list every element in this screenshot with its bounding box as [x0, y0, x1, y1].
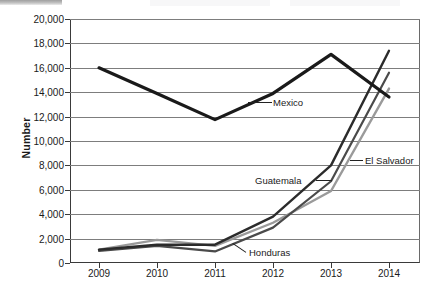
- x-tick: [157, 263, 158, 268]
- x-tick-label: 2011: [188, 268, 242, 279]
- x-tick: [331, 263, 332, 268]
- y-tick: [65, 263, 70, 264]
- series-label-honduras: Honduras: [249, 247, 290, 258]
- leader-line-guatemala: [316, 180, 332, 181]
- x-tick-label: 2010: [130, 268, 184, 279]
- x-tick: [389, 263, 390, 268]
- series-line-mexico: [99, 54, 389, 119]
- y-tick-label: 2,000: [18, 233, 64, 244]
- series-label-mexico: Mexico: [273, 97, 303, 108]
- series-lines: [70, 19, 420, 263]
- series-label-el-salvador: El Salvador: [365, 155, 414, 166]
- x-tick: [99, 263, 100, 268]
- x-tick: [215, 263, 216, 268]
- y-tick-label: 16,000: [18, 62, 64, 73]
- page-header-artifact: [0, 0, 62, 5]
- y-tick-label: 14,000: [18, 87, 64, 98]
- y-tick-label: 4,000: [18, 209, 64, 220]
- x-tick-label: 2012: [246, 268, 300, 279]
- series-line-honduras: [99, 73, 389, 252]
- x-tick-label: 2014: [362, 268, 416, 279]
- x-tick-label: 2009: [72, 268, 126, 279]
- leader-line-el-salvador: [350, 160, 363, 161]
- plot-area: [70, 19, 420, 263]
- y-tick-label: 0: [18, 258, 64, 269]
- x-tick-label: 2013: [304, 268, 358, 279]
- series-label-guatemala: Guatemala: [255, 175, 301, 186]
- y-tick-label: 10,000: [18, 136, 64, 147]
- y-tick-label: 20,000: [18, 14, 64, 25]
- y-tick-label: 18,000: [18, 38, 64, 49]
- series-line-guatemala: [99, 51, 389, 250]
- x-tick: [273, 263, 274, 268]
- y-axis-tick-labels: 20,000 18,000 16,000 14,000 12,000 10,00…: [16, 19, 64, 263]
- leader-line-mexico: [248, 102, 272, 103]
- chart-canvas: Number 20,000 18,000 16,000 14,000 12,00…: [0, 0, 436, 294]
- y-tick-label: 12,000: [18, 111, 64, 122]
- y-tick-label: 8,000: [18, 160, 64, 171]
- series-line-el-salvador: [99, 89, 389, 250]
- y-tick-label: 6,000: [18, 184, 64, 195]
